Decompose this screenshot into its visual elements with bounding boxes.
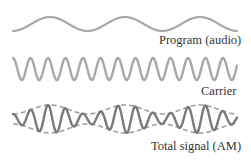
total-signal-am-wave — [13, 105, 237, 133]
program-audio-wave — [13, 17, 237, 31]
am-modulation-diagram — [0, 0, 251, 161]
program-label: Program (audio) — [159, 34, 241, 47]
carrier-label: Carrier — [201, 85, 236, 98]
total-signal-label: Total signal (AM) — [151, 140, 241, 153]
carrier-wave — [13, 58, 237, 80]
